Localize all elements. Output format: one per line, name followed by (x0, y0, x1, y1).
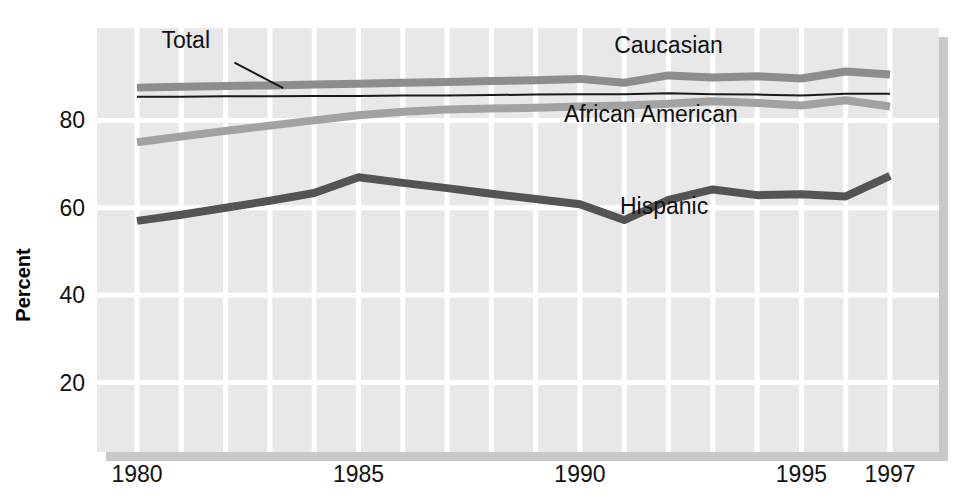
series-label-hispanic: Hispanic (620, 193, 708, 219)
y-axis-title: Percent (12, 248, 34, 322)
x-tick-label: 1985 (333, 461, 384, 487)
y-tick-label: 60 (59, 195, 85, 221)
x-tick-label: 1997 (864, 461, 915, 487)
x-tick-label: 1995 (776, 461, 827, 487)
series-label-caucasian: Caucasian (614, 32, 723, 58)
chart-figure: 20406080Percent19801985199019951997Cauca… (0, 0, 967, 497)
x-tick-label: 1980 (111, 461, 162, 487)
x-tick-label: 1990 (554, 461, 605, 487)
line-chart-canvas: 20406080Percent19801985199019951997Cauca… (0, 0, 967, 497)
series-label-total: Total (161, 27, 210, 53)
x-axis-ticks: 19801985199019951997 (111, 461, 915, 487)
y-tick-label: 80 (59, 107, 85, 133)
y-tick-label: 40 (59, 282, 85, 308)
y-tick-label: 20 (59, 370, 85, 396)
y-axis-ticks: 20406080 (59, 107, 85, 395)
series-label-african-american: African American (564, 101, 738, 127)
